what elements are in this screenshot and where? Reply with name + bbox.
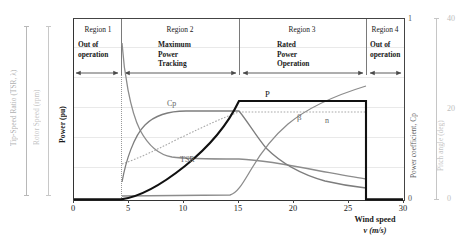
region-divider-1-2-dotted bbox=[121, 75, 122, 200]
wind-turbine-operating-regions-chart: Tip-Speed Ratio (TSR, λ) Rotor Speed (rp… bbox=[0, 0, 466, 251]
rotor-speed-axis-cap-bottom bbox=[46, 195, 51, 196]
rotor-speed-axis-cap-top bbox=[46, 26, 51, 27]
rotor-speed-axis-spine bbox=[48, 26, 49, 196]
pitch-angle-tick-label-20: 20 bbox=[447, 104, 455, 113]
region-divider-2-3 bbox=[239, 19, 240, 75]
region-1-title: Region 1 bbox=[76, 25, 120, 34]
region-divider-1-2 bbox=[121, 19, 122, 75]
gridline bbox=[74, 77, 404, 78]
region-4-title: Region 4 bbox=[363, 25, 407, 34]
tip-speed-ratio-axis-cap-top bbox=[24, 26, 29, 27]
region-4-description: Out of operation bbox=[370, 40, 400, 59]
xtick-label-0: 0 bbox=[62, 204, 84, 213]
region-4-description-line-2: operation bbox=[370, 50, 400, 60]
region-3-description: Rated Power Operation bbox=[277, 40, 309, 69]
gridline bbox=[74, 107, 404, 108]
pitch-angle-tick-label-40: 40 bbox=[447, 14, 455, 23]
region-3-description-line-2: Power bbox=[277, 50, 309, 60]
region-2-description: Maximum Power Tracking bbox=[158, 40, 191, 69]
x-axis-title: Wind speed v (m/s) bbox=[320, 215, 430, 236]
xtick-mark bbox=[238, 200, 239, 203]
region-3-title: Region 3 bbox=[280, 25, 324, 34]
gridline bbox=[74, 167, 404, 168]
region-2-description-line-1: Maximum bbox=[158, 40, 191, 50]
rotor-speed-axis-label: Rotor Speed (rpm) bbox=[33, 72, 41, 162]
xtick-mark bbox=[403, 200, 404, 203]
xtick-mark bbox=[293, 200, 294, 203]
pitch-angle-axis-label: Pitch angle (deg) bbox=[437, 110, 445, 182]
xtick-mark bbox=[128, 200, 129, 203]
region-1-description-line-2: operation bbox=[78, 50, 108, 60]
x-axis-title-line-1: Wind speed bbox=[320, 215, 430, 226]
gridline bbox=[74, 137, 404, 138]
pitch-angle-axis-cap-bottom bbox=[434, 199, 439, 200]
xtick-label-20: 20 bbox=[282, 204, 304, 213]
power-coefficient-axis-label: Power coefficient, Cp bbox=[410, 98, 418, 194]
xtick-label-25: 25 bbox=[337, 204, 359, 213]
region-2-title: Region 2 bbox=[158, 25, 202, 34]
region-1-description-line-1: Out of bbox=[78, 40, 108, 50]
curve-label-n: n bbox=[325, 116, 329, 125]
xtick-label-5: 5 bbox=[117, 204, 139, 213]
region-3-description-line-1: Rated bbox=[277, 40, 309, 50]
cp-axis-tick-label-0: 0 bbox=[408, 194, 412, 203]
region-2-description-line-3: Tracking bbox=[158, 59, 191, 69]
curve-label-tsr: TSR bbox=[180, 155, 195, 164]
tip-speed-ratio-axis-spine bbox=[26, 26, 27, 196]
xtick-mark bbox=[348, 200, 349, 203]
curve-label-beta: β bbox=[297, 112, 302, 122]
xtick-mark bbox=[183, 200, 184, 203]
xtick-label-15: 15 bbox=[227, 204, 249, 213]
xtick-label-10: 10 bbox=[172, 204, 194, 213]
tip-speed-ratio-axis-label: Tip-Speed Ratio (TSR, λ) bbox=[10, 48, 18, 168]
pitch-angle-axis-cap-top bbox=[434, 18, 439, 19]
region-1-description: Out of operation bbox=[78, 40, 108, 59]
power-axis-label: Power (pu) bbox=[58, 90, 67, 160]
tip-speed-ratio-axis-cap-bottom bbox=[24, 195, 29, 196]
xtick-label-30: 30 bbox=[392, 204, 414, 213]
region-3-description-line-3: Operation bbox=[277, 59, 309, 69]
curve-label-cp: Cp bbox=[167, 99, 176, 108]
region-4-description-line-1: Out of bbox=[370, 40, 400, 50]
x-axis-title-line-2: v (m/s) bbox=[320, 226, 430, 237]
cp-axis-tick-label-1: 1 bbox=[408, 14, 412, 23]
xtick-mark bbox=[73, 200, 74, 203]
curve-label-p: P bbox=[265, 89, 270, 99]
pitch-angle-tick-label-0: 0 bbox=[447, 194, 451, 203]
region-2-description-line-2: Power bbox=[158, 50, 191, 60]
